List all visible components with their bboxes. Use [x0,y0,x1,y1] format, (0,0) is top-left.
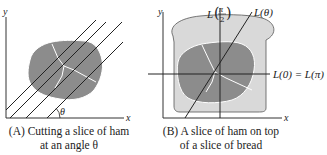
caption-b-line1: (B) A slice of ham on top [160,124,282,138]
x-axis-label-a: x [125,112,131,123]
angle-theta-label: θ [60,106,65,117]
label-L-theta: L(θ) [253,6,273,19]
y-axis-label-b: y [157,6,163,17]
caption-a-line1: (A) Cutting a slice of ham [4,124,134,138]
caption-b-line2: of a slice of bread [160,138,282,152]
caption-a: (A) Cutting a slice of ham at an angle θ [4,124,134,152]
y-axis-label-a: y [2,6,8,17]
svg-text:): ) [226,5,231,21]
label-pi: π [219,5,224,14]
ham-slice-a [28,40,103,99]
label-L-zero-pi: L(0) = L(π) [272,68,324,81]
label-L-prefix: L [206,8,213,20]
panel-a: y x θ [2,6,131,123]
caption-a-line2: at an angle θ [4,138,134,152]
panel-b: y x L ( π 2 ) L(θ) L(0) = L(π) [148,5,324,123]
caption-b: (B) A slice of ham on top of a slice of … [160,124,282,152]
x-axis-label-b: x [283,112,289,123]
label-two: 2 [220,15,225,24]
